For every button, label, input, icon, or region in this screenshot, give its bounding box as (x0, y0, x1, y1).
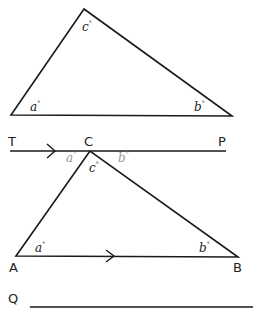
line-angle-a-label: a° (66, 150, 76, 165)
top-angle-a-label: a° (30, 99, 40, 114)
bottom-angle-b-label: b° (199, 240, 210, 255)
point-p-label: P (218, 134, 226, 149)
point-a-label: A (9, 260, 18, 275)
point-b-label: B (233, 260, 242, 275)
point-q-label: Q (8, 291, 18, 306)
point-t-label: T (7, 134, 16, 149)
top-angle-b-label: b° (194, 99, 205, 114)
geometry-diagram: c° a° b° T C P a° b° c° a° b° A B Q (0, 0, 253, 309)
line-angle-b-label: b° (118, 150, 129, 165)
top-angle-c-label: c° (82, 19, 92, 34)
bottom-angle-a-label: a° (35, 240, 45, 255)
line-angle-c-label: c° (89, 160, 99, 175)
point-c-label: C (84, 134, 93, 149)
